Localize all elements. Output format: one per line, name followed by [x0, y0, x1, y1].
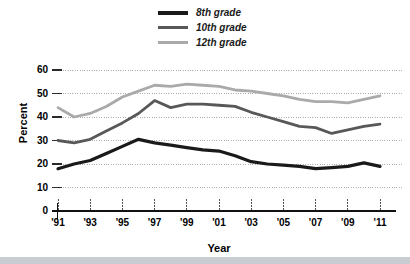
y-tick-label: 50 [26, 88, 48, 99]
x-tick-label: '91 [46, 217, 70, 228]
x-tick-label: '95 [110, 217, 134, 228]
x-tick-label: '01 [207, 217, 231, 228]
series-line [58, 84, 380, 117]
x-tick-label: '11 [368, 217, 392, 228]
y-tick-label: 10 [26, 182, 48, 193]
x-tick-label: '05 [271, 217, 295, 228]
x-tick-label: '03 [239, 217, 263, 228]
y-tick-label: 30 [26, 135, 48, 146]
x-tick-label: '99 [175, 217, 199, 228]
data-series [58, 84, 380, 169]
y-tick-label: 20 [26, 158, 48, 169]
x-tick-label: '07 [304, 217, 328, 228]
y-axis-title: Percent [17, 83, 29, 163]
chart-figure: 8th grade 10th grade 12th grade 01020304… [0, 0, 410, 264]
y-tick-label: 40 [26, 111, 48, 122]
x-tick-label: '93 [78, 217, 102, 228]
y-tick-label: 60 [26, 64, 48, 75]
y-tick-label: 0 [26, 205, 48, 216]
x-tick-label: '09 [336, 217, 360, 228]
bottom-band [0, 257, 410, 264]
plot-area: 0102030405060 '91'93'95'97'99'01'03'05'0… [0, 0, 410, 264]
x-axis-ticks [58, 199, 380, 211]
x-tick-label: '97 [143, 217, 167, 228]
x-axis-title: Year [58, 242, 380, 254]
